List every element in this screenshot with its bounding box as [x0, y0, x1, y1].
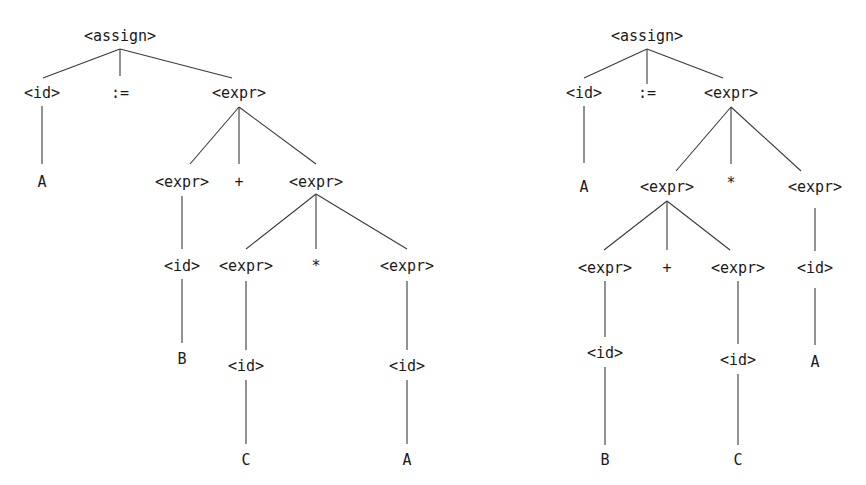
tree-node: <expr>	[578, 261, 632, 276]
tree-edge	[43, 49, 120, 78]
tree-node: *	[726, 176, 735, 191]
tree-node: <expr>	[380, 259, 434, 274]
tree-node: <id>	[164, 259, 200, 274]
tree-node: <expr>	[788, 180, 842, 195]
tree-node: <id>	[566, 86, 602, 101]
tree-node: A	[810, 355, 819, 370]
parse-tree-right-edges	[584, 49, 815, 445]
tree-node: <assign>	[84, 29, 156, 44]
tree-edge	[676, 107, 731, 171]
tree-edge	[604, 201, 667, 250]
tree-node: <expr>	[219, 259, 273, 274]
tree-edge	[316, 194, 407, 249]
tree-node: B	[177, 352, 186, 367]
tree-node: <expr>	[704, 86, 758, 101]
tree-node: :=	[638, 86, 656, 101]
tree-node: C	[733, 453, 742, 468]
tree-node: B	[600, 453, 609, 468]
tree-node: <expr>	[711, 261, 765, 276]
tree-node: +	[662, 261, 671, 276]
tree-node: A	[402, 453, 411, 468]
tree-node: <id>	[228, 359, 264, 374]
tree-edge	[731, 107, 801, 171]
tree-edge	[239, 107, 316, 164]
parse-tree-diagram: <assign><id>:=<expr>A<expr>+<expr><id><e…	[0, 0, 866, 485]
tree-edge	[120, 49, 232, 78]
tree-node: A	[579, 180, 588, 195]
tree-edges	[0, 0, 866, 485]
tree-node: C	[241, 453, 250, 468]
tree-edge	[246, 194, 316, 249]
tree-node: <id>	[24, 86, 60, 101]
tree-edge	[647, 49, 723, 78]
tree-node: <expr>	[212, 86, 266, 101]
tree-edge	[667, 201, 730, 250]
tree-node: <id>	[587, 346, 623, 361]
tree-edge	[190, 107, 239, 164]
tree-node: A	[37, 175, 46, 190]
tree-node: <expr>	[289, 175, 343, 190]
tree-node: :=	[111, 86, 129, 101]
tree-node: +	[234, 175, 243, 190]
parse-tree-left-edges	[42, 49, 407, 444]
tree-node: <id>	[389, 359, 425, 374]
tree-node: <id>	[797, 261, 833, 276]
tree-edge	[584, 49, 647, 78]
tree-node: <assign>	[611, 29, 683, 44]
tree-node: <expr>	[640, 180, 694, 195]
tree-node: <expr>	[155, 175, 209, 190]
tree-node: <id>	[720, 353, 756, 368]
tree-node: *	[311, 259, 320, 274]
